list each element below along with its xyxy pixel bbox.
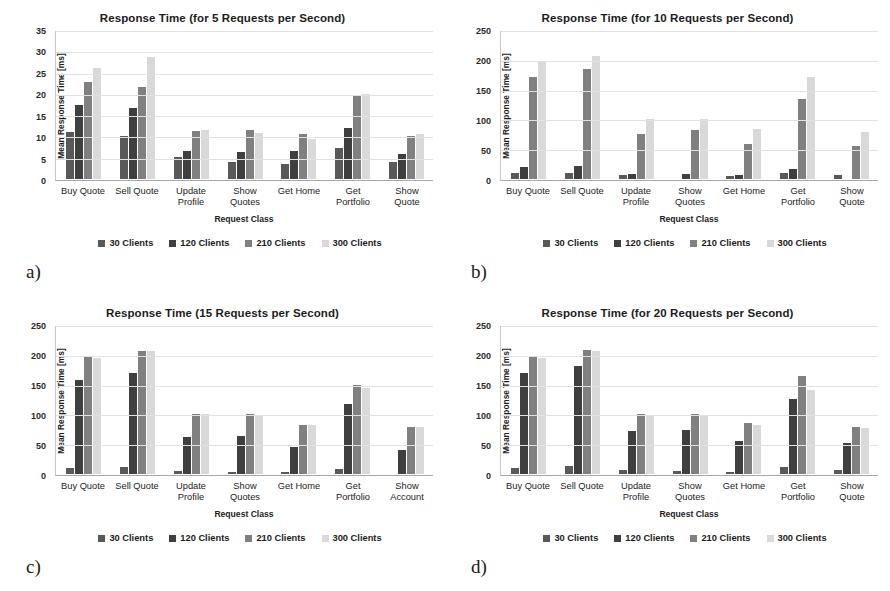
grid-line [501, 91, 878, 92]
y-tick-label: 0 [41, 472, 46, 481]
x-category-label: Buy Quote [56, 186, 110, 208]
bar [362, 388, 370, 474]
bar-groups [502, 326, 878, 474]
legend-item: 120 Clients [614, 533, 674, 543]
bar-group [57, 326, 111, 474]
bar [75, 380, 83, 474]
bar [789, 169, 797, 179]
bar [120, 136, 128, 179]
bar [308, 425, 316, 474]
legend-item: 300 Clients [767, 238, 827, 248]
grid-line [501, 120, 878, 121]
bar [583, 350, 591, 474]
legend-swatch-icon [614, 240, 621, 247]
legend-label: 300 Clients [333, 238, 382, 248]
bar-group [164, 326, 218, 474]
bar [174, 157, 182, 179]
bar [237, 436, 245, 474]
bar [362, 94, 370, 179]
legend-item: 210 Clients [690, 533, 750, 543]
bar-group [663, 326, 717, 474]
legend-swatch-icon [169, 535, 176, 542]
plot-area: Mean Response Time [ms] 050100150200250 [55, 326, 433, 476]
legend-label: 30 Clients [554, 533, 598, 543]
bar [174, 471, 182, 474]
legend-swatch-icon [98, 535, 105, 542]
y-tick-label: 0 [486, 177, 491, 186]
y-tick-label: 150 [476, 87, 491, 96]
y-tick-label: 200 [31, 352, 46, 361]
y-tick-label: 30 [36, 48, 46, 57]
bar-groups [57, 326, 433, 474]
legend-item: 210 Clients [245, 238, 305, 248]
bar [416, 427, 424, 474]
bar [138, 351, 146, 474]
bar [574, 166, 582, 179]
bar [592, 56, 600, 179]
x-category-label: Show Quotes [663, 481, 717, 503]
bar [619, 470, 627, 474]
grid-line [501, 61, 878, 62]
bar [66, 468, 74, 475]
bar [780, 467, 788, 474]
legend-swatch-icon [690, 240, 697, 247]
bar [129, 373, 137, 474]
chart-panel-a: Response Time (for 5 Requests per Second… [0, 0, 445, 295]
grid-line [501, 326, 878, 327]
bar [299, 134, 307, 179]
bar [407, 427, 415, 474]
bar-group [326, 326, 380, 474]
bar [147, 351, 155, 474]
legend-label: 30 Clients [109, 533, 153, 543]
x-category-label: Update Profile [164, 186, 218, 208]
bar-groups [502, 31, 878, 179]
bar-group [556, 326, 610, 474]
bar [807, 77, 815, 179]
bar [726, 472, 734, 474]
x-category-label: Buy Quote [501, 186, 555, 208]
bar [192, 414, 200, 474]
bar-group [556, 31, 610, 179]
grid-line [501, 150, 878, 151]
y-tick-label: 0 [486, 472, 491, 481]
bar-group [609, 326, 663, 474]
y-tick-label: 200 [476, 352, 491, 361]
bar [682, 430, 690, 474]
legend-label: 210 Clients [256, 238, 305, 248]
bar [120, 467, 128, 474]
y-tick-label: 10 [36, 134, 46, 143]
legend-swatch-icon [98, 240, 105, 247]
panel-letter-d: d) [471, 557, 487, 576]
x-axis-label: Request Class [500, 214, 878, 224]
x-category-label: Get Portfolio [326, 186, 380, 208]
grid-line [56, 74, 433, 75]
bar-group [663, 31, 717, 179]
bar [852, 146, 860, 179]
bar [129, 108, 137, 179]
bar [861, 132, 869, 179]
chart-title: Response Time (for 5 Requests per Second… [0, 12, 445, 24]
grid-line [56, 356, 433, 357]
bar [353, 385, 361, 474]
plot-canvas [55, 326, 433, 476]
chart-title: Response Time (for 10 Requests per Secon… [445, 12, 890, 24]
bar-group [771, 326, 825, 474]
x-category-label: Update Profile [164, 481, 218, 503]
y-tick-label: 100 [476, 117, 491, 126]
bar [682, 174, 690, 179]
legend-item: 30 Clients [543, 238, 598, 248]
y-tick-label: 5 [41, 155, 46, 164]
bar [290, 151, 298, 179]
y-tick-label: 0 [41, 177, 46, 186]
x-axis-label: Request Class [55, 214, 433, 224]
bar [511, 173, 519, 179]
legend-item: 120 Clients [169, 533, 229, 543]
legend-swatch-icon [322, 535, 329, 542]
bar [407, 136, 415, 179]
legend-label: 30 Clients [109, 238, 153, 248]
x-category-label: Show Quote [825, 481, 879, 503]
y-tick-label: 50 [481, 442, 491, 451]
grid-line [56, 445, 433, 446]
bar [520, 167, 528, 179]
legend-label: 30 Clients [554, 238, 598, 248]
